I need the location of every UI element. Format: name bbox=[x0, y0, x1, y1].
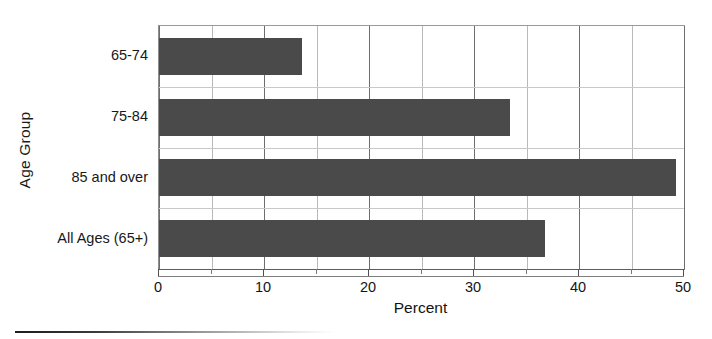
x-tick-50 bbox=[683, 269, 684, 276]
footer-divider bbox=[15, 331, 335, 333]
x-tick-5 bbox=[211, 269, 212, 274]
category-label: 85 and over bbox=[71, 167, 148, 187]
bar bbox=[159, 220, 545, 257]
bar bbox=[159, 159, 676, 196]
x-tick-35 bbox=[526, 269, 527, 274]
x-tick-40 bbox=[578, 269, 579, 276]
x-tick-label: 20 bbox=[360, 279, 376, 295]
x-axis-tick-labels: 01020304050 bbox=[158, 279, 683, 299]
y-axis-title-text: Age Group bbox=[16, 112, 34, 189]
x-tick-label: 50 bbox=[675, 279, 691, 295]
bar-chart: Age Group 65-7475-8485 and overAll Ages … bbox=[0, 0, 712, 339]
x-tick-30 bbox=[473, 269, 474, 276]
x-tick-label: 30 bbox=[465, 279, 481, 295]
bar-series bbox=[159, 26, 684, 269]
x-axis-title: Percent bbox=[158, 299, 683, 317]
category-label: 75-84 bbox=[111, 106, 148, 126]
x-tick-45 bbox=[631, 269, 632, 274]
x-tick-label: 40 bbox=[570, 279, 586, 295]
x-tick-10 bbox=[263, 269, 264, 276]
gridline-x-50 bbox=[684, 26, 685, 269]
x-tick-label: 0 bbox=[154, 279, 162, 295]
y-axis-category-labels: 65-7475-8485 and overAll Ages (65+) bbox=[40, 25, 151, 268]
x-tick-15 bbox=[316, 269, 317, 274]
x-tick-0 bbox=[158, 269, 159, 276]
bar bbox=[159, 99, 510, 136]
plot-area bbox=[158, 25, 685, 270]
bar bbox=[159, 38, 302, 75]
x-axis-line bbox=[158, 276, 684, 277]
x-tick-20 bbox=[368, 269, 369, 276]
category-label: 65-74 bbox=[111, 45, 148, 65]
x-tick-label: 10 bbox=[255, 279, 271, 295]
category-label: All Ages (65+) bbox=[57, 228, 148, 248]
x-tick-25 bbox=[421, 269, 422, 274]
